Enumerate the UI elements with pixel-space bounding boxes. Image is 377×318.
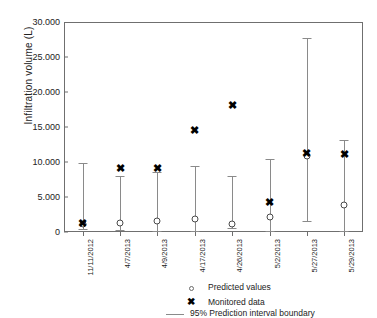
y-tick-label: 20.000 xyxy=(14,87,60,97)
prediction-interval-cap xyxy=(116,230,125,231)
predicted-value-marker xyxy=(191,216,198,223)
line-segment-icon xyxy=(166,314,184,315)
x-tick-label: 4/9/2013 xyxy=(160,239,169,268)
y-tick-mark xyxy=(64,92,68,93)
monitored-data-marker: ✖ xyxy=(153,163,162,174)
predicted-value-marker xyxy=(341,202,348,209)
prediction-interval-cap xyxy=(340,231,349,232)
chart-figure: Infiltration volume (L) 05.00010.00015.0… xyxy=(0,0,377,318)
monitored-data-marker: ✖ xyxy=(265,196,274,207)
legend-label-monitored-data: Monitored data xyxy=(208,297,265,307)
cross-x-icon: ✖ xyxy=(184,296,198,307)
prediction-interval-cap xyxy=(340,140,349,141)
x-tick-mark xyxy=(157,232,158,236)
x-tick-mark xyxy=(83,232,84,236)
prediction-interval-cap xyxy=(116,176,125,177)
plot-area xyxy=(64,22,363,232)
y-tick-label: 5.000 xyxy=(14,192,60,202)
y-tick-label: 10.000 xyxy=(14,157,60,167)
y-tick-label: 30.000 xyxy=(14,17,60,27)
y-tick-label: 25.000 xyxy=(14,52,60,62)
monitored-data-marker: ✖ xyxy=(190,124,199,135)
monitored-data-marker: ✖ xyxy=(340,148,349,159)
prediction-interval-cap xyxy=(228,228,237,229)
x-tick-mark xyxy=(120,232,121,236)
legend-item-prediction-interval: 95% Prediction interval boundary xyxy=(166,308,376,318)
x-tick-mark xyxy=(232,232,233,236)
x-tick-label: 5/27/2013 xyxy=(310,239,319,272)
x-tick-label: 4/26/2013 xyxy=(235,239,244,272)
monitored-data-marker: ✖ xyxy=(116,162,125,173)
prediction-interval-cap xyxy=(265,231,274,232)
legend-label-prediction-interval: 95% Prediction interval boundary xyxy=(190,308,315,318)
prediction-interval-cap xyxy=(190,166,199,167)
x-tick-label: 4/17/2013 xyxy=(198,239,207,272)
x-tick-mark xyxy=(195,232,196,236)
prediction-interval-cap xyxy=(302,221,311,222)
x-tick-label: 5/29/2013 xyxy=(347,239,356,272)
x-tick-label: 5/2/2013 xyxy=(273,239,282,268)
predicted-value-marker xyxy=(266,213,273,220)
y-tick-mark xyxy=(64,197,68,198)
y-tick-label: 15.000 xyxy=(14,122,60,132)
prediction-interval-cap xyxy=(302,38,311,39)
x-tick-mark xyxy=(344,232,345,236)
prediction-interval-cap xyxy=(228,176,237,177)
x-tick-label: 11/11/2012 xyxy=(86,239,95,275)
monitored-data-marker: ✖ xyxy=(302,147,311,158)
y-tick-label: 0 xyxy=(14,227,60,237)
monitored-data-marker: ✖ xyxy=(78,217,87,228)
prediction-interval-bar xyxy=(307,38,308,221)
y-tick-mark xyxy=(64,127,68,128)
prediction-interval-cap xyxy=(265,159,274,160)
predicted-value-marker xyxy=(154,218,161,225)
predicted-value-marker xyxy=(117,220,124,227)
prediction-interval-cap xyxy=(190,231,199,232)
prediction-interval-cap xyxy=(78,163,87,164)
predicted-value-marker xyxy=(229,220,236,227)
legend-label-predicted-values: Predicted values xyxy=(208,282,271,292)
x-tick-mark xyxy=(307,232,308,236)
x-tick-label: 4/7/2013 xyxy=(123,239,132,268)
monitored-data-marker: ✖ xyxy=(228,99,237,110)
prediction-interval-cap xyxy=(153,231,162,232)
y-tick-mark xyxy=(64,162,68,163)
x-tick-mark xyxy=(270,232,271,236)
y-tick-mark xyxy=(64,232,68,233)
open-circle-icon xyxy=(184,281,198,291)
y-tick-mark xyxy=(64,57,68,58)
prediction-interval-cap xyxy=(78,229,87,230)
